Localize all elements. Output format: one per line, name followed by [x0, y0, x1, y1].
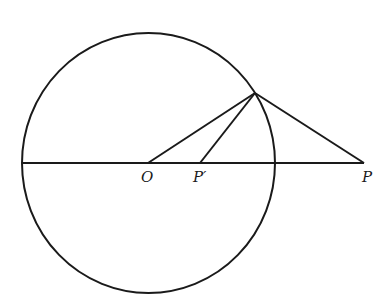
diagram-canvas [0, 0, 390, 304]
label-O: O [141, 170, 153, 185]
segment-Pprime-to-point [200, 93, 255, 163]
segment-O-to-point [148, 93, 255, 163]
geometry-diagram: O P′ P [0, 0, 390, 304]
label-P-prime: P′ [193, 170, 207, 185]
label-P: P [362, 170, 372, 185]
